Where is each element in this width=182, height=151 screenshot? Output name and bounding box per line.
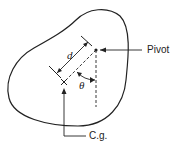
- pivot-arrowhead: [100, 48, 106, 53]
- cg-label: C.g.: [89, 131, 107, 141]
- cg-leader: [64, 90, 86, 136]
- diagram-canvas: [0, 0, 182, 151]
- distance-label: d: [67, 50, 73, 61]
- angle-label: θ: [79, 80, 84, 91]
- angle-arrowhead: [90, 77, 95, 83]
- pivot-dot: [94, 48, 97, 51]
- pivot-label: Pivot: [147, 45, 169, 55]
- cg-arrowhead: [62, 88, 67, 94]
- body-outline: [8, 10, 128, 126]
